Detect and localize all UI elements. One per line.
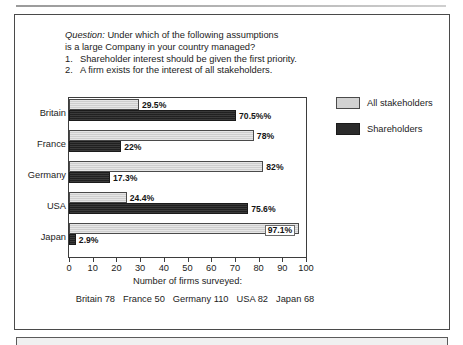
- bar-chart: 29.5%70.5%%78%22%82%17.3%24.4%75.6%97.1%…: [0, 0, 463, 345]
- x-axis-title: Number of firms surveyed:: [68, 276, 307, 286]
- bar-france-shareholders: 22%: [69, 141, 121, 152]
- x-tick-80: [259, 258, 260, 262]
- footnote-entry: France 50: [123, 294, 165, 304]
- bar-germany-shareholders: 17.3%: [69, 172, 110, 183]
- category-label-germany: Germany: [0, 170, 66, 181]
- x-tick-label-10: 10: [88, 263, 98, 273]
- footnote-entry: Japan 68: [276, 294, 314, 304]
- next-figure-frame: [16, 337, 448, 345]
- x-axis: 0102030405060708090100: [68, 258, 307, 263]
- chart-legend: All stakeholdersShareholders: [336, 97, 448, 149]
- x-tick-20: [116, 258, 117, 262]
- category-label-britain: Britain: [0, 108, 66, 119]
- bar-value-japan-all-stakeholders: 97.1%: [265, 225, 295, 236]
- bar-value-germany-shareholders: 17.3%: [113, 173, 137, 184]
- x-tick-label-20: 20: [111, 263, 121, 273]
- bar-france-all-stakeholders: 78%: [69, 130, 254, 141]
- bar-value-germany-all-stakeholders: 82%: [266, 162, 283, 173]
- footnote-entry: USA 82: [236, 294, 268, 304]
- legend-item-shareholders: Shareholders: [336, 123, 448, 135]
- legend-swatch-shareholders: [336, 123, 360, 135]
- footnote-entry: Germany 110: [173, 294, 229, 304]
- x-tick-label-0: 0: [66, 263, 71, 273]
- bar-germany-all-stakeholders: 82%: [69, 161, 263, 172]
- legend-label-all-stakeholders: All stakeholders: [367, 98, 433, 108]
- x-tick-label-60: 60: [206, 263, 216, 273]
- x-tick-label-70: 70: [230, 263, 240, 273]
- bar-value-britain-shareholders: 70.5%%: [239, 111, 271, 122]
- footnote-entry: Britain 78: [76, 294, 115, 304]
- x-tick-30: [140, 258, 141, 262]
- category-label-japan: Japan: [0, 232, 66, 243]
- category-label-usa: USA: [0, 201, 66, 212]
- x-tick-60: [211, 258, 212, 262]
- x-tick-100: [306, 258, 307, 262]
- legend-label-shareholders: Shareholders: [367, 124, 422, 134]
- x-tick-50: [188, 258, 189, 262]
- plot-area: 29.5%70.5%%78%22%82%17.3%24.4%75.6%97.1%…: [68, 97, 307, 258]
- x-tick-0: [69, 258, 70, 262]
- bar-britain-shareholders: 70.5%%: [69, 110, 236, 121]
- x-tick-40: [164, 258, 165, 262]
- bar-usa-shareholders: 75.6%: [69, 203, 248, 214]
- bar-usa-all-stakeholders: 24.4%: [69, 192, 127, 203]
- x-tick-10: [93, 258, 94, 262]
- x-tick-label-30: 30: [135, 263, 145, 273]
- x-tick-label-50: 50: [182, 263, 192, 273]
- x-tick-90: [282, 258, 283, 262]
- bar-japan-all-stakeholders: 97.1%: [69, 223, 299, 234]
- bar-value-usa-shareholders: 75.6%: [251, 204, 275, 215]
- bar-britain-all-stakeholders: 29.5%: [69, 99, 139, 110]
- x-tick-70: [235, 258, 236, 262]
- legend-swatch-all-stakeholders: [336, 97, 360, 109]
- category-label-france: France: [0, 139, 66, 150]
- bar-value-japan-shareholders: 2.9%: [79, 235, 99, 246]
- x-tick-label-40: 40: [159, 263, 169, 273]
- legend-item-all-stakeholders: All stakeholders: [336, 97, 448, 109]
- x-tick-label-90: 90: [277, 263, 287, 273]
- x-tick-label-100: 100: [298, 263, 314, 273]
- bar-value-france-all-stakeholders: 78%: [257, 131, 274, 142]
- x-tick-label-80: 80: [253, 263, 263, 273]
- bar-value-france-shareholders: 22%: [124, 142, 141, 153]
- bar-japan-shareholders: 2.9%: [69, 234, 76, 245]
- firms-surveyed-footnote: Britain 78France 50Germany 110USA 82Japa…: [68, 294, 328, 304]
